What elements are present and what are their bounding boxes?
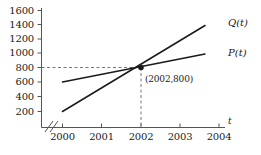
- intersection-point-label: (2002,800): [145, 75, 193, 84]
- y-tick-label-1200: 1200: [0, 34, 34, 44]
- y-tick-label-600: 600: [0, 77, 34, 87]
- chart-figure: 1600 1400 1200 1000 800 600 400 200 2000…: [0, 0, 261, 155]
- y-axis-ticks: [38, 11, 42, 112]
- x-tick-label-2002: 2002: [121, 132, 161, 142]
- series-label-q: Q(t): [228, 18, 248, 28]
- y-tick-label-200: 200: [0, 107, 34, 117]
- x-tick-label-2000: 2000: [43, 132, 83, 142]
- intersection-point-marker: [138, 65, 143, 70]
- series-label-p: P(t): [228, 48, 247, 58]
- x-axis-label: t: [228, 117, 232, 126]
- x-tick-label-2001: 2001: [82, 132, 122, 142]
- x-tick-label-2003: 2003: [160, 132, 200, 142]
- y-tick-label-1400: 1400: [0, 20, 34, 30]
- x-tick-label-2004: 2004: [199, 132, 239, 142]
- y-tick-label-1600: 1600: [0, 6, 34, 16]
- y-tick-label-1000: 1000: [0, 48, 34, 58]
- y-tick-label-400: 400: [0, 92, 34, 102]
- y-tick-label-800: 800: [0, 63, 34, 73]
